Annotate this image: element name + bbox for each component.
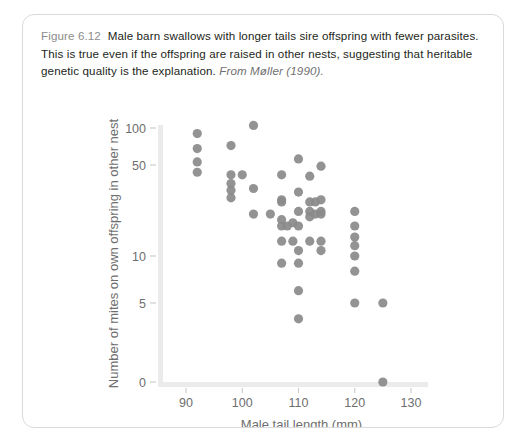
data-point [277, 197, 286, 206]
y-tick-label: 10 [132, 250, 146, 264]
x-tick-label: 130 [401, 396, 422, 410]
data-point [238, 170, 247, 179]
data-point [350, 241, 359, 250]
data-point [316, 246, 325, 255]
scatter-plot: 05105010090100110120130 Male tail length… [23, 87, 503, 427]
data-point [249, 121, 258, 130]
data-point [277, 259, 286, 268]
data-point [316, 195, 325, 204]
data-point [294, 221, 303, 230]
data-point [316, 237, 325, 246]
plot-svg: 05105010090100110120130 Male tail length… [23, 87, 503, 427]
x-tick-label: 110 [289, 396, 309, 410]
x-tick-label: 100 [232, 396, 253, 410]
x-tick-label: 90 [179, 396, 193, 410]
axis-ticks: 05105010090100110120130 [125, 122, 421, 411]
data-point [193, 144, 202, 153]
data-point [249, 184, 258, 193]
caption-source: From Møller (1990). [219, 64, 324, 77]
data-point [226, 141, 235, 150]
figure-caption: Figure 6.12 Male barn swallows with long… [41, 27, 485, 80]
data-point [277, 170, 286, 179]
data-point [249, 209, 258, 218]
data-point [378, 298, 387, 307]
y-tick-label: 100 [125, 122, 146, 136]
data-point [305, 172, 314, 181]
x-tick-label: 120 [344, 396, 365, 410]
data-point [193, 168, 202, 177]
data-point [305, 237, 314, 246]
data-point [193, 157, 202, 166]
data-point [350, 221, 359, 230]
data-point [350, 267, 359, 276]
data-point [193, 129, 202, 138]
y-tick-label: 5 [139, 297, 146, 311]
y-tick-label: 0 [139, 376, 146, 390]
data-point [226, 193, 235, 202]
figure-label: Figure 6.12 [41, 29, 101, 42]
data-points [193, 121, 388, 387]
x-axis-title: Male tail length (mm) [241, 417, 362, 427]
data-point [266, 209, 275, 218]
data-point [316, 209, 325, 218]
data-point [226, 170, 235, 179]
y-axis-title: Number of mites on own offspring in othe… [106, 118, 121, 388]
figure-card: Figure 6.12 Male barn swallows with long… [22, 14, 504, 428]
data-point [294, 314, 303, 323]
data-point [350, 232, 359, 241]
data-point [350, 298, 359, 307]
data-point [350, 251, 359, 260]
data-point [294, 246, 303, 255]
data-point [294, 259, 303, 268]
y-tick-label: 50 [132, 159, 146, 173]
data-point [294, 286, 303, 295]
data-point [316, 162, 325, 171]
data-point [277, 237, 286, 246]
data-point [288, 237, 297, 246]
data-point [378, 377, 387, 386]
data-point [350, 207, 359, 216]
data-point [294, 154, 303, 163]
data-point [294, 187, 303, 196]
data-point [294, 207, 303, 216]
